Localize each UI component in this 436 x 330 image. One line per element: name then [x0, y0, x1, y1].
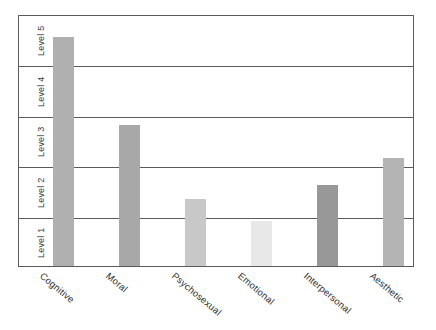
x-axis-label-moral: Moral [103, 270, 129, 294]
x-axis-label-psychosexual: Psychosexual [169, 270, 223, 318]
y-axis-label-level-3: Level 3 [36, 117, 46, 167]
x-axis-label-emotional: Emotional [235, 270, 276, 307]
bar-interpersonal [317, 185, 338, 266]
y-axis-label-level-2: Level 2 [36, 167, 46, 217]
bar-emotional [251, 221, 272, 266]
bar-moral [119, 125, 140, 266]
bar-chart-figure: Level 1Level 2Level 3Level 4Level 5 Cogn… [0, 0, 436, 330]
bar-cognitive [53, 37, 74, 266]
gridline [19, 167, 413, 168]
gridline [19, 117, 413, 118]
bar-aesthetic [383, 158, 404, 266]
x-axis-label-interpersonal: Interpersonal [301, 270, 353, 316]
gridline [19, 218, 413, 219]
plot-area: Level 1Level 2Level 3Level 4Level 5 [18, 15, 414, 267]
y-axis-label-level-4: Level 4 [36, 66, 46, 116]
bar-psychosexual [185, 199, 206, 266]
x-axis-label-aesthetic: Aesthetic [367, 270, 405, 305]
y-axis-label-level-1: Level 1 [36, 218, 46, 268]
y-axis-label-level-5: Level 5 [36, 16, 46, 66]
gridline [19, 66, 413, 67]
x-axis-label-cognitive: Cognitive [37, 270, 76, 305]
